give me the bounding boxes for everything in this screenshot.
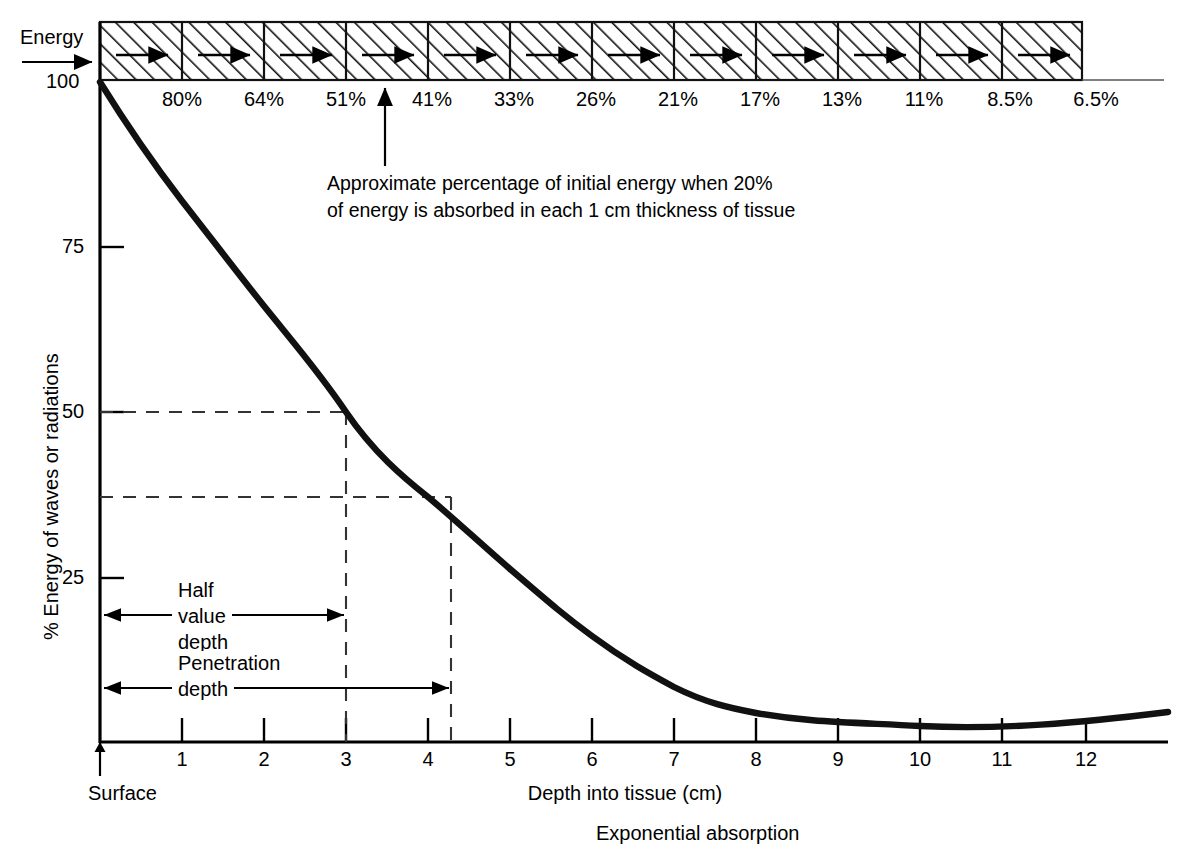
x-tick-label-8: 8 [750, 748, 761, 770]
absorption-pct-8: 17% [740, 88, 780, 110]
x-tick-label-4: 4 [422, 748, 433, 770]
absorption-pct-4: 41% [412, 88, 452, 110]
absorption-pct-6: 26% [576, 88, 616, 110]
chart-canvas [0, 0, 1191, 847]
absorption-pct-12: 6.5% [1073, 88, 1119, 110]
x-tick-label-3: 3 [340, 748, 351, 770]
callout-line-1: Approximate percentage of initial energy… [327, 170, 773, 196]
x-axis-title: Depth into tissue (cm) [528, 782, 723, 804]
x-tick-label-6: 6 [586, 748, 597, 770]
half-value-depth-line-2: value [172, 604, 232, 630]
absorption-pct-3: 51% [326, 88, 366, 110]
y-tick-label-75: 75 [62, 235, 84, 257]
absorption-pct-9: 13% [822, 88, 862, 110]
x-tick-label-5: 5 [504, 748, 515, 770]
y-axis-title: % Energy of waves or radiations [40, 353, 63, 640]
absorption-band [100, 22, 1164, 80]
surface-label: Surface [88, 782, 157, 804]
exponential-absorption-figure: Energy 100 75 50 25 % Energy of waves or… [0, 0, 1191, 847]
x-tick-label-12: 12 [1075, 748, 1097, 770]
x-tick-label-10: 10 [909, 748, 931, 770]
y-tick-label-50: 50 [62, 400, 84, 422]
x-tick-label-9: 9 [832, 748, 843, 770]
absorption-pct-1: 80% [162, 88, 202, 110]
absorption-pct-11: 8.5% [987, 88, 1033, 110]
penetration-depth-line-1: Penetration [172, 651, 286, 677]
absorption-pct-2: 64% [244, 88, 284, 110]
y-tick-label-100: 100 [46, 70, 79, 92]
figure-caption: Exponential absorption [596, 822, 799, 845]
y-tick-label-25: 25 [62, 566, 84, 588]
callout-line-2: of energy is absorbed in each 1 cm thick… [327, 197, 795, 223]
penetration-depth-line-2: depth [172, 677, 234, 703]
energy-label: Energy [20, 26, 83, 48]
construction-lines [100, 412, 451, 742]
x-tick-label-2: 2 [258, 748, 269, 770]
x-tick-label-7: 7 [668, 748, 679, 770]
absorption-pct-10: 11% [905, 88, 944, 110]
x-tick-label-11: 11 [992, 748, 1013, 770]
x-tick-label-1: 1 [176, 748, 187, 770]
absorption-pct-5: 33% [494, 88, 534, 110]
half-value-depth-line-1: Half [172, 578, 220, 604]
absorption-pct-7: 21% [658, 88, 698, 110]
